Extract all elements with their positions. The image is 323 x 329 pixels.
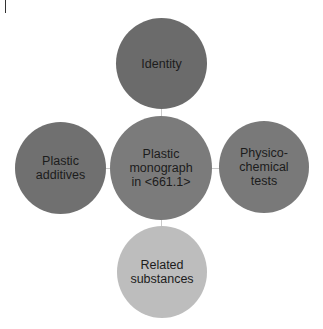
node-plastic-additives: Plastic additives (15, 122, 106, 214)
node-identity: Identity (116, 18, 207, 109)
node-label: Identity (141, 57, 181, 71)
node-label: Plastic additives (36, 154, 85, 182)
node-label: Related substances (130, 258, 193, 286)
node-physico-chemical-tests: Physico- chemical tests (219, 121, 309, 213)
node-label: Plastic monograph in <661.1> (129, 147, 192, 189)
node-plastic-monograph-center: Plastic monograph in <661.1> (110, 116, 212, 220)
node-label: Physico- chemical tests (239, 146, 288, 188)
page-edge-mark (5, 0, 6, 13)
node-related-substances: Related substances (117, 226, 207, 318)
